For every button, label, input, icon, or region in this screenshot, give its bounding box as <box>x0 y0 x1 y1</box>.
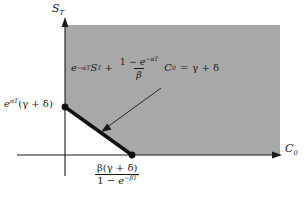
constraint-equation: e−αTST + 1 − e−αT β C0 = γ + δ <box>71 57 219 79</box>
constraint-fraction-numerator: 1 − e−αT <box>118 57 160 68</box>
constraint-fraction-num-prefix: 1 − <box>120 56 140 67</box>
constraint-right-hand-side: γ + δ <box>192 63 219 73</box>
y-axis-arrowhead <box>62 17 69 27</box>
y-axis-label-base: S <box>52 2 60 15</box>
constraint-plus-sign: + <box>104 63 112 73</box>
y-intercept-exponent: αT <box>10 97 18 104</box>
x-intercept-fraction: β(γ + δ) 1 − e−βT <box>95 163 139 186</box>
y-axis-label-subscript: T <box>60 9 65 17</box>
boundary-endpoint-dot-lower <box>129 152 136 159</box>
y-intercept-label: eαT(γ + δ) <box>4 99 53 109</box>
constraint-fraction: 1 − e−αT β <box>118 57 160 79</box>
x-intercept-label: β(γ + δ) 1 − e−βT <box>93 163 141 186</box>
x-axis-label: C0 <box>285 143 298 154</box>
x-axis-label-subscript: 0 <box>293 149 297 157</box>
x-intercept-denominator-prefix: 1 − <box>97 175 118 186</box>
shaded-feasible-region <box>65 25 280 155</box>
boundary-endpoint-dot-upper <box>62 104 69 111</box>
constraint-fraction-num-exponent: −αT <box>145 56 158 62</box>
y-intercept-paren: (γ + δ) <box>18 98 53 109</box>
x-intercept-denominator: 1 − e−βT <box>95 174 139 186</box>
constraint-term2-var: C <box>164 63 172 73</box>
constraint-fraction-denominator: β <box>134 68 144 80</box>
constraint-term1-var: S <box>90 63 97 73</box>
x-intercept-numerator: β(γ + δ) <box>95 163 139 174</box>
x-intercept-denominator-exponent: −βT <box>124 174 137 181</box>
feasible-region-figure: ST C0 eαT(γ + δ) e−αTST + 1 − e−αT β C0 … <box>0 0 307 201</box>
constraint-equals-sign: = <box>180 63 188 73</box>
y-axis-label: ST <box>52 3 64 14</box>
